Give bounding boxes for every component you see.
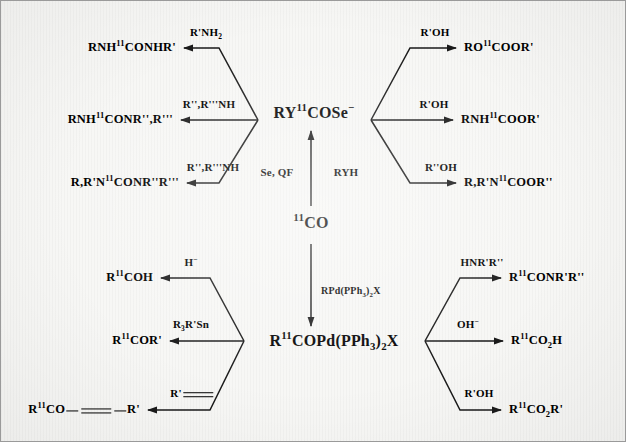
- product-trisubstituted-urea: RNH11CONR'',R''': [68, 113, 173, 126]
- product-bl-2-tail: R': [127, 402, 140, 416]
- product-tr-0-pre: RO: [464, 40, 483, 54]
- reagent-hydride: H−: [184, 257, 197, 269]
- product-dialkyl-carbonate: RO11COOR': [464, 41, 534, 54]
- node-selenocarbamate: RY11COSe−: [274, 105, 355, 122]
- palladium-node-suffix-c: X: [387, 332, 399, 349]
- reagent-secondary-amine-upper: R'',R'''NH: [183, 99, 235, 111]
- product-tr-0-post: COOR': [492, 40, 534, 54]
- reagent-alcohol-ester: R'OH: [465, 388, 494, 400]
- product-tl-0-sup: 11: [116, 38, 124, 48]
- product-br-1-pre: R: [511, 333, 520, 347]
- product-tetrasubstituted-urea: R,R'N11CONR''R''': [71, 176, 179, 189]
- single-bond-icon-product: [66, 410, 78, 411]
- triple-bond-icon-product: [81, 406, 111, 415]
- product-aldehyde: R11COH: [106, 271, 153, 284]
- product-br-0-post: CONR'R'': [527, 270, 585, 284]
- product-tl-2-post: CONR''R''': [114, 175, 179, 189]
- product-tl-0-pre: RNH: [88, 40, 116, 54]
- reagent-bl-1-text: R: [173, 318, 181, 330]
- reagent-terminal-alkyne: R': [170, 388, 215, 400]
- reagent-bl-2-text: R': [170, 387, 181, 399]
- product-bl-1-sup: 11: [122, 331, 130, 341]
- co-superscript-11: 11: [293, 211, 304, 223]
- reagent-br-1-text: OH: [457, 318, 475, 330]
- reagent-selenium-quaternary-fluoride: Se, QF: [261, 167, 294, 179]
- palladium-node-suffix-a: COPd(PPh: [292, 332, 370, 349]
- product-carboxylic-acid: R11CO2H: [511, 334, 562, 347]
- product-br-1-post-a: CO: [529, 333, 548, 347]
- pd-reagent-text-c: X: [373, 285, 380, 296]
- selenium-node-suffix: COSe: [307, 104, 348, 121]
- product-br-2-post-b: R': [550, 402, 563, 416]
- reagent-alcohol-carbamate: R'OH: [420, 99, 449, 111]
- fan-bottom-right-upper: [425, 278, 501, 341]
- product-br-2-pre: R: [509, 402, 518, 416]
- node-carbon11-monoxide: 11CO: [293, 215, 328, 232]
- fan-bottom-left-upper: [161, 278, 244, 341]
- product-tl-1-sup: 11: [96, 110, 104, 120]
- selenium-node-charge: −: [348, 101, 354, 113]
- product-monosubstituted-carbamate: RNH11COOR': [461, 113, 540, 126]
- reagent-bl-1-post: R'Sn: [185, 318, 209, 330]
- reagent-br-1-sup: −: [475, 317, 479, 326]
- product-tl-1-pre: RNH: [68, 112, 96, 126]
- product-tr-2-post: COOR'': [507, 175, 553, 189]
- reagent-bl-0-text: H: [184, 256, 193, 268]
- reagent-hydroxide: OH−: [457, 319, 479, 331]
- product-bl-1-post: COR': [130, 333, 162, 347]
- product-tr-0-sup: 11: [483, 38, 491, 48]
- product-tl-1-post: CONR'',R''': [104, 112, 173, 126]
- product-bl-2-sup: 11: [38, 400, 46, 410]
- product-bl-0-pre: R: [106, 270, 115, 284]
- product-bl-2-pre: R: [28, 402, 37, 416]
- product-tr-1-pre: RNH: [461, 112, 489, 126]
- reagent-arylpalladium-complex: RPd(PPh3)2X: [321, 286, 381, 297]
- reagent-organostannane: R3R'Sn: [173, 319, 209, 331]
- palladium-node-superscript: 11: [281, 329, 292, 341]
- product-bl-0-sup: 11: [115, 268, 123, 278]
- product-ynone: R11COR': [28, 403, 140, 416]
- product-tr-2-pre: R,R'N: [464, 175, 499, 189]
- product-tl-2-sup: 11: [105, 173, 113, 183]
- product-bl-0-post: COH: [124, 270, 153, 284]
- product-bl-1-pre: R: [112, 333, 121, 347]
- reagent-bl-0-sup: −: [193, 255, 197, 264]
- product-tr-1-post: COOR': [498, 112, 540, 126]
- product-bl-2-post: CO: [46, 402, 65, 416]
- co-label: CO: [304, 214, 328, 231]
- product-ester: R11CO2R': [509, 403, 563, 416]
- triple-bond-icon-reagent: [184, 390, 214, 399]
- reagent-tl-0-sub: 2: [218, 32, 222, 41]
- reagent-ryh: RYH: [334, 167, 359, 179]
- product-br-2-post-a: CO: [527, 402, 546, 416]
- product-br-0-sup: 11: [518, 268, 526, 278]
- product-br-2-sup: 11: [518, 400, 526, 410]
- product-br-0-pre: R: [509, 270, 518, 284]
- pd-reagent-text-a: RPd(PPh: [321, 285, 362, 296]
- reagent-alcohol-disubstituted-carbamate: R''OH: [425, 162, 457, 174]
- product-br-1-sup: 11: [520, 331, 528, 341]
- product-tertiary-amide: R11CONR'R'': [509, 271, 585, 284]
- product-tl-2-pre: R,R'N: [71, 175, 106, 189]
- node-acylpalladium: R11COPd(PPh3)2X: [269, 333, 398, 350]
- product-tr-2-sup: 11: [499, 173, 507, 183]
- palladium-node-prefix: R: [269, 332, 281, 349]
- reaction-scheme-diagram: 11CO RY11COSe− R11COPd(PPh3)2X Se, QF RY…: [0, 0, 626, 442]
- reagent-primary-amine: R'NH2: [190, 27, 222, 39]
- reagent-secondary-amine-lower: R'',R'''NH: [187, 162, 239, 174]
- reagent-tl-0-text: R'NH: [190, 26, 218, 38]
- selenium-node-superscript: 11: [297, 101, 308, 113]
- reagent-secondary-amine-amide: HNR'R'': [461, 257, 504, 269]
- product-unsymmetrical-urea: RNH11CONHR': [88, 41, 176, 54]
- product-tl-0-post: CONHR': [125, 40, 176, 54]
- product-ketone: R11COR': [112, 334, 162, 347]
- product-br-1-post-b: H: [552, 333, 562, 347]
- selenium-node-prefix: RY: [274, 104, 297, 121]
- reagent-alcohol-carbonate: R'OH: [421, 27, 450, 39]
- single-bond-icon-product-tail: [114, 410, 126, 411]
- product-disubstituted-carbamate: R,R'N11COOR'': [464, 176, 553, 189]
- product-tr-1-sup: 11: [489, 110, 497, 120]
